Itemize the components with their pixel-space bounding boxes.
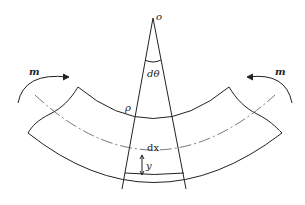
moment-left-arrowhead [63, 74, 69, 80]
angle-arc [145, 60, 161, 62]
bending-beam-diagram: o dθ ρ dx y m m [0, 0, 305, 205]
label-moment-left: m [29, 66, 40, 77]
beam-top-edge [78, 87, 229, 119]
label-moment-right: m [275, 66, 286, 77]
label-dx: dx [147, 142, 159, 153]
moment-right-arrowhead [247, 74, 253, 80]
beam-right-end [229, 87, 282, 133]
moment-left-arc [18, 76, 68, 103]
label-radius: ρ [124, 102, 131, 113]
wedge-right-line [153, 18, 186, 189]
label-origin: o [156, 11, 162, 22]
label-angle: dθ [147, 68, 159, 79]
fiber-line [125, 173, 184, 175]
beam-bottom-edge [28, 133, 282, 183]
label-y: y [145, 160, 152, 171]
